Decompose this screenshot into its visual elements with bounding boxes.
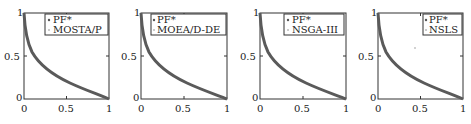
y-tick-label-0: 0 (133, 92, 139, 103)
legend-label-algo: NSLS (429, 24, 458, 35)
x-tick-label-0: 0 (21, 103, 27, 114)
y-tick-label-05: 0.5 (121, 51, 137, 62)
y-tick-label-1: 1 (17, 7, 23, 18)
x-tick-label-1: 1 (343, 103, 349, 114)
subplot-moead-de: 1 0.5 0 0 0.5 1 PF* MOEA/D-DE (117, 0, 235, 124)
legend: PF* NSGA-III (284, 14, 344, 35)
legend-marker-pf (153, 19, 155, 21)
y-tick-label-0: 0 (16, 92, 22, 103)
legend-label-algo: NSGA-III (292, 24, 338, 35)
y-tick-label-05: 0.5 (240, 51, 256, 62)
x-tick-label-0: 0 (375, 103, 381, 114)
legend-label-algo: MOSTA/P (53, 24, 102, 35)
x-tick-label-0: 0 (257, 103, 263, 114)
x-tick-label-05: 0.5 (412, 103, 428, 114)
y-tick-label-05: 0.5 (4, 51, 20, 62)
subplot-mosta-p: 1 0.5 0 0 0.5 1 PF* MOSTA/P (0, 0, 118, 124)
x-tick-label-05: 0.5 (58, 103, 74, 114)
legend-marker-pf (48, 19, 50, 21)
y-tick-label-05: 0.5 (358, 51, 374, 62)
legend-marker-algo (425, 29, 427, 31)
legend: PF* NSLS (423, 14, 462, 35)
plot-moead-de: 1 0.5 0 0 0.5 1 PF* MOEA/D-DE (117, 0, 235, 124)
legend-marker-algo (287, 29, 289, 31)
legend-marker-algo (153, 29, 155, 31)
x-tick-label-0: 0 (138, 103, 144, 114)
legend-marker-pf (287, 19, 289, 21)
legend-marker-pf (425, 19, 427, 21)
y-tick-label-0: 0 (370, 92, 376, 103)
x-tick-label-1: 1 (106, 103, 112, 114)
y-tick-label-1: 1 (134, 7, 140, 18)
plot-nsls: 1 0.5 0 0 0.5 1 PF* NSLS (354, 0, 471, 124)
y-tick-label-1: 1 (371, 7, 377, 18)
subplot-nsls: 1 0.5 0 0 0.5 1 PF* NSLS (354, 0, 471, 124)
legend: PF* MOEA/D-DE (151, 14, 226, 35)
plot-mosta-p: 1 0.5 0 0 0.5 1 PF* MOSTA/P (0, 0, 118, 124)
legend-label-algo: MOEA/D-DE (157, 24, 220, 35)
x-tick-label-1: 1 (460, 103, 466, 114)
legend-marker-algo (48, 29, 50, 31)
stray-point (414, 47, 416, 49)
plot-nsga-iii: 1 0.5 0 0 0.5 1 PF* NSGA-III (236, 0, 354, 124)
subplot-nsga-iii: 1 0.5 0 0 0.5 1 PF* NSGA-III (236, 0, 354, 124)
y-tick-label-0: 0 (252, 92, 258, 103)
x-tick-label-05: 0.5 (294, 103, 310, 114)
x-tick-label-1: 1 (224, 103, 230, 114)
y-tick-label-1: 1 (253, 7, 259, 18)
x-tick-label-05: 0.5 (175, 103, 191, 114)
legend: PF* MOSTA/P (45, 14, 108, 35)
